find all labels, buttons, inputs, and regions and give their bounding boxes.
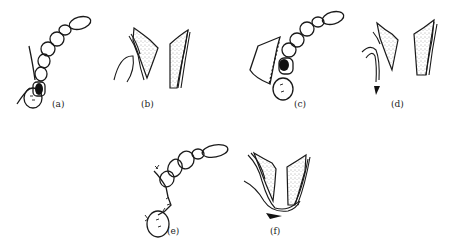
panel-c: (c) [225, 0, 345, 125]
panel-e: (e) [120, 125, 240, 249]
panel-label-a: (a) [52, 99, 64, 109]
panel-d: (d) [340, 0, 454, 125]
panel-label-f: (f) [270, 226, 280, 236]
panel-label-e: (e) [167, 226, 179, 236]
panel-label-c: (c) [294, 99, 306, 109]
canal-cross-section-f-illustration [230, 125, 350, 249]
panel-f: (f) [230, 125, 350, 249]
ossicle-chain-c-illustration [225, 0, 345, 125]
panel-label-b: (b) [141, 99, 154, 109]
ossicle-chain-e-illustration [120, 125, 240, 249]
panel-label-d: (d) [391, 99, 404, 109]
panel-a: (a) [0, 0, 110, 125]
panel-b: (b) [100, 0, 200, 125]
